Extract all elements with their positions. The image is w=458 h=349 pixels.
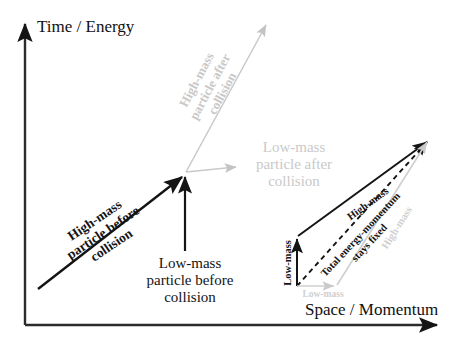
high-mass-before-arrow — [38, 177, 182, 289]
inset-high-mass-grey-arrow — [337, 142, 427, 285]
inset-high-mass-arrow — [298, 142, 427, 236]
physics-diagram-figure: Time / Energy Space / Momentum High-mass… — [0, 0, 458, 349]
high-mass-after-arrow — [186, 25, 266, 172]
low-mass-after-arrow — [186, 167, 236, 172]
inset-total-energy-momentum-arrow — [297, 142, 427, 286]
diagram-canvas — [0, 0, 458, 349]
